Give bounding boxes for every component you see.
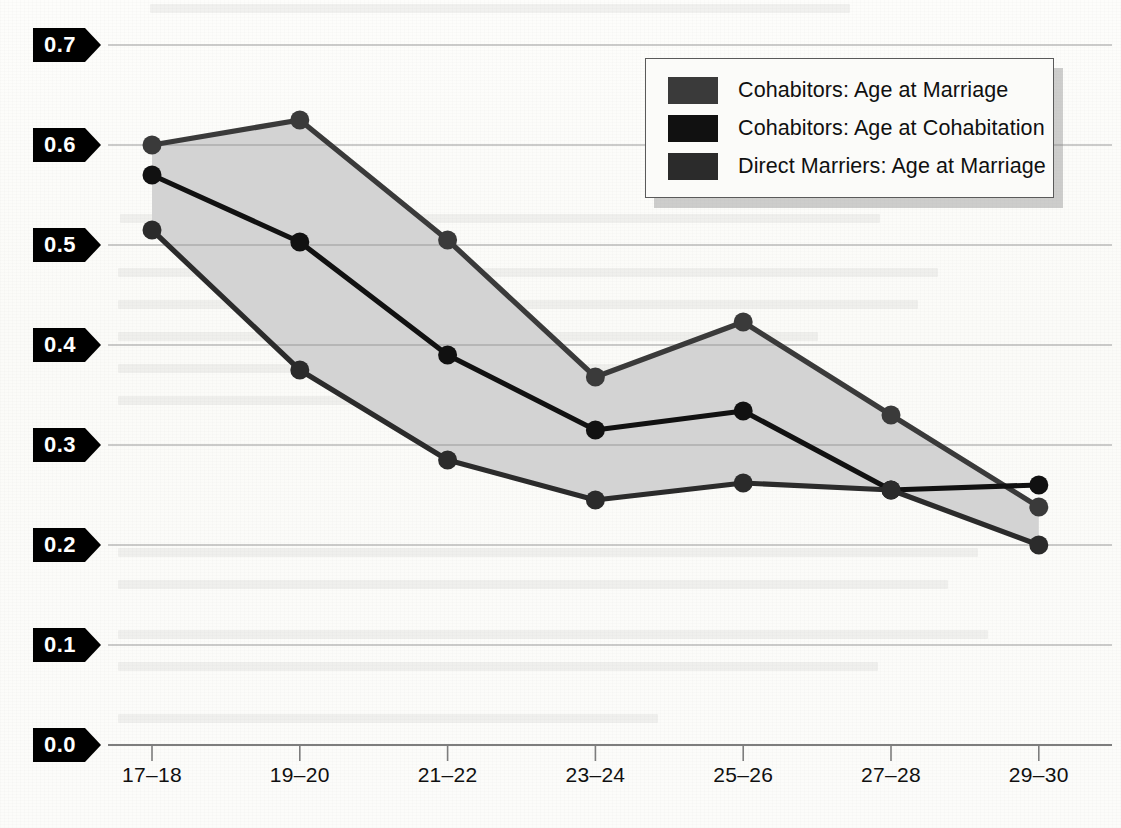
legend-item[interactable]: Cohabitors: Age at Marriage (646, 71, 1053, 109)
x-axis-tick-label: 27–28 (861, 763, 921, 787)
data-point-marker[interactable] (1029, 498, 1048, 517)
data-point-marker[interactable] (734, 313, 753, 332)
data-point-marker[interactable] (1029, 476, 1048, 495)
legend-swatch-icon (668, 115, 718, 142)
data-point-marker[interactable] (1029, 536, 1048, 555)
legend-swatch-icon (668, 153, 718, 180)
chart-legend[interactable]: Cohabitors: Age at Marriage Cohabitors: … (645, 58, 1054, 198)
data-point-marker[interactable] (734, 474, 753, 493)
data-point-marker[interactable] (438, 451, 457, 470)
data-point-marker[interactable] (290, 111, 309, 130)
data-point-marker[interactable] (438, 346, 457, 365)
data-point-marker[interactable] (290, 233, 309, 252)
legend-item-label: Cohabitors: Age at Cohabitation (738, 116, 1045, 141)
x-tick-marks-group (152, 745, 1039, 761)
x-axis-tick-label: 19–20 (270, 763, 330, 787)
x-axis-tick-label: 17–18 (122, 763, 182, 787)
data-point-marker[interactable] (290, 361, 309, 380)
data-point-marker[interactable] (882, 481, 901, 500)
data-point-marker[interactable] (143, 136, 162, 155)
line-chart: 0.70.60.50.40.30.20.10.0 17–1819–2021–22… (0, 0, 1121, 828)
legend-swatch-icon (668, 77, 718, 104)
x-axis-tick-label: 29–30 (1009, 763, 1069, 787)
legend-item-label: Cohabitors: Age at Marriage (738, 78, 1008, 103)
x-axis-tick-label: 25–26 (713, 763, 773, 787)
data-point-marker[interactable] (586, 421, 605, 440)
legend-item[interactable]: Cohabitors: Age at Cohabitation (646, 109, 1053, 147)
data-point-marker[interactable] (586, 491, 605, 510)
data-point-marker[interactable] (438, 231, 457, 250)
data-point-marker[interactable] (143, 221, 162, 240)
x-axis-tick-label: 21–22 (418, 763, 478, 787)
legend-item[interactable]: Direct Marriers: Age at Marriage (646, 147, 1053, 185)
data-point-marker[interactable] (882, 406, 901, 425)
legend-item-label: Direct Marriers: Age at Marriage (738, 154, 1046, 179)
x-axis-tick-label: 23–24 (565, 763, 625, 787)
data-point-marker[interactable] (586, 368, 605, 387)
data-point-marker[interactable] (143, 166, 162, 185)
data-point-marker[interactable] (734, 402, 753, 421)
